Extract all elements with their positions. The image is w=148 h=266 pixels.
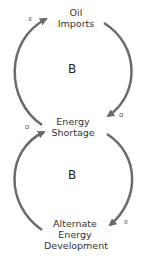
arrow-imports-to-shortage bbox=[104, 23, 132, 116]
node-oil-imports-line2: Imports bbox=[54, 18, 98, 29]
loop-label-bottom: B bbox=[68, 168, 76, 182]
node-oil-imports: Oil Imports bbox=[54, 7, 98, 29]
node-oil-imports-line1: Oil bbox=[54, 7, 98, 18]
polarity-label-s-bottom: s bbox=[124, 218, 128, 226]
loop-label-top: B bbox=[68, 62, 76, 76]
node-alternate-line1: Alternate bbox=[44, 218, 106, 229]
node-alternate-line2: Energy bbox=[44, 229, 106, 240]
node-alternate-line3: Development bbox=[44, 240, 106, 251]
node-energy-shortage-line1: Energy bbox=[48, 116, 98, 127]
arrow-shortage-to-imports bbox=[15, 19, 46, 125]
node-energy-shortage: Energy Shortage bbox=[48, 116, 98, 138]
arrow-alternate-to-shortage bbox=[14, 132, 44, 230]
arrow-shortage-to-alternate bbox=[107, 134, 132, 225]
polarity-label-o-bottom: o bbox=[25, 123, 29, 131]
polarity-label-o-top: o bbox=[119, 111, 123, 119]
node-energy-shortage-line2: Shortage bbox=[48, 127, 98, 138]
node-alternate-energy: Alternate Energy Development bbox=[44, 218, 106, 251]
polarity-label-s-top: s bbox=[28, 15, 32, 23]
